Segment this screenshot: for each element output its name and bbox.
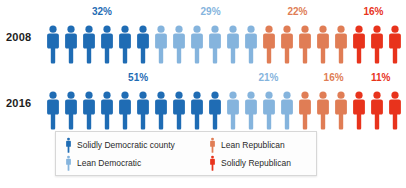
figure-strip-2008 (44, 22, 406, 64)
person-icon (62, 90, 80, 130)
person-icon (314, 90, 332, 130)
person-icon (116, 24, 134, 64)
person-icon (224, 24, 242, 64)
person-icon (116, 90, 134, 130)
percent-labels-2016: 51%21%16%11% (44, 70, 406, 90)
person-icon (208, 137, 217, 153)
percent-label-2008-1: 29% (201, 6, 221, 17)
person-icon (188, 24, 206, 64)
legend-item-label: Lean Republican (221, 141, 285, 150)
person-icon (134, 90, 152, 130)
person-icon (368, 90, 386, 130)
county-partisanship-pictogram-chart: 2008 32%29%22%16% 2016 51%21%16%11% Soli… (0, 0, 406, 188)
percent-label-2016-3: 11% (371, 72, 390, 83)
person-icon (386, 90, 404, 130)
person-icon (314, 24, 332, 64)
person-icon (242, 24, 260, 64)
person-icon (350, 90, 368, 130)
person-icon (332, 24, 350, 64)
person-icon (80, 24, 98, 64)
legend-box: Solidly Democratic countyLean Republican… (55, 131, 317, 176)
figure-strip-2016 (44, 88, 406, 130)
person-icon (62, 24, 80, 64)
person-icon (386, 24, 404, 64)
legend-item-2: Lean Democratic (64, 155, 208, 171)
legend-item-1: Lean Republican (208, 137, 312, 153)
percent-label-2008-0: 32% (92, 6, 112, 17)
person-icon (152, 24, 170, 64)
chart-row-2016: 2016 51%21%16%11% (0, 70, 406, 132)
person-icon (170, 90, 188, 130)
percent-labels-2008: 32%29%22%16% (44, 4, 406, 24)
person-icon (278, 90, 296, 130)
person-icon (170, 24, 188, 64)
person-icon (98, 24, 116, 64)
percent-label-2016-2: 16% (324, 72, 344, 83)
person-icon (296, 24, 314, 64)
year-label-2016: 2016 (6, 97, 42, 109)
person-icon (260, 24, 278, 64)
person-icon (64, 155, 73, 171)
person-icon (350, 24, 368, 64)
person-icon (188, 90, 206, 130)
person-icon (44, 90, 62, 130)
percent-label-2016-1: 21% (258, 72, 278, 83)
person-icon (44, 24, 62, 64)
person-icon (332, 90, 350, 130)
person-icon (206, 24, 224, 64)
person-icon (224, 90, 242, 130)
person-icon (296, 90, 314, 130)
legend-grid: Solidly Democratic countyLean Republican… (64, 136, 312, 173)
person-icon (64, 137, 73, 153)
person-icon (278, 24, 296, 64)
year-label-2008: 2008 (6, 31, 42, 43)
person-icon (134, 24, 152, 64)
person-icon (80, 90, 98, 130)
legend-item-0: Solidly Democratic county (64, 137, 208, 153)
person-icon (368, 24, 386, 64)
person-icon (98, 90, 116, 130)
legend-item-3: Solidly Republican (208, 155, 312, 171)
person-icon (260, 90, 278, 130)
person-icon (206, 90, 224, 130)
chart-row-2008: 2008 32%29%22%16% (0, 4, 406, 66)
person-icon (152, 90, 170, 130)
person-icon (208, 155, 217, 171)
percent-label-2016-0: 51% (128, 72, 148, 83)
percent-label-2008-2: 22% (287, 6, 307, 17)
person-icon (242, 90, 260, 130)
legend-item-label: Solidly Republican (221, 159, 291, 168)
legend-item-label: Lean Democratic (77, 159, 141, 168)
percent-label-2008-3: 16% (363, 6, 383, 17)
legend-item-label: Solidly Democratic county (77, 141, 175, 150)
